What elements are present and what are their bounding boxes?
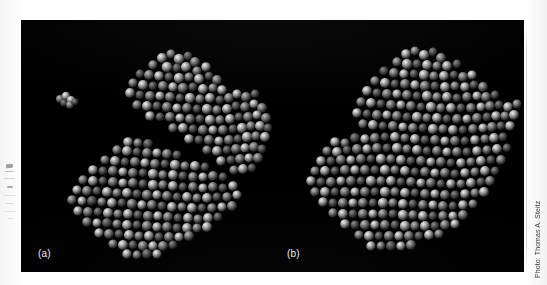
scan-artifact-marks	[2, 162, 20, 224]
panel-label-a: (a)	[38, 248, 51, 259]
figure-photo-plate: (a) (b)	[21, 20, 524, 272]
space-filling-molecule-illustration	[21, 20, 524, 272]
page-background: (a) (b) Photo: Thomas A. Steitz	[0, 0, 547, 285]
photo-credit: Photo: Thomas A. Steitz	[532, 182, 544, 278]
margin-rule	[526, 22, 527, 272]
panel-label-b: (b)	[287, 248, 300, 259]
